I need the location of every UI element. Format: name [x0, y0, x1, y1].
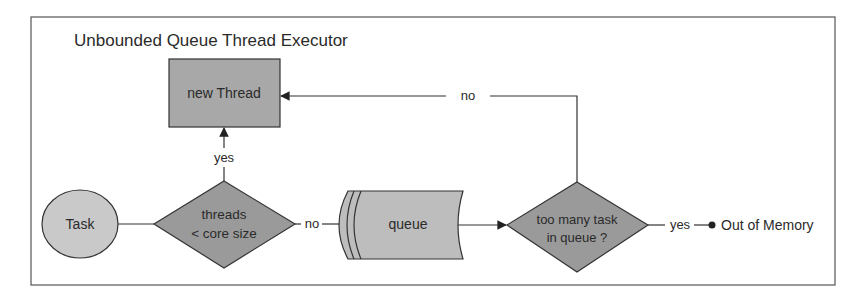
diagram-title: Unbounded Queue Thread Executor: [74, 31, 348, 50]
decision-core-line2: < core size: [191, 226, 257, 241]
edge-no-back-label: no: [461, 88, 475, 103]
edge-no-back-right: [490, 96, 577, 182]
terminal-dot-icon: [709, 222, 716, 229]
new-thread-label: new Thread: [187, 85, 261, 101]
decision-core-line1: threads: [201, 207, 246, 222]
edge-no-queue-label: no: [305, 216, 319, 231]
decision-core-size: threads < core size: [154, 181, 295, 268]
decision-queue-line2: in queue ?: [547, 230, 608, 245]
out-of-memory-label: Out of Memory: [721, 217, 814, 233]
task-node: Task: [42, 190, 118, 258]
decision-queue-line1: too many task: [537, 212, 618, 227]
queue-label: queue: [389, 216, 428, 232]
queue-node: queue: [339, 191, 463, 259]
edge-yes-oom-label: yes: [670, 217, 691, 232]
flowchart: Unbounded Queue Thread Executor Task thr…: [0, 0, 860, 299]
edge-yes-label: yes: [214, 150, 235, 165]
new-thread-node: new Thread: [169, 59, 280, 127]
task-label: Task: [66, 216, 96, 232]
decision-queue-full: too many task in queue ?: [507, 182, 648, 272]
